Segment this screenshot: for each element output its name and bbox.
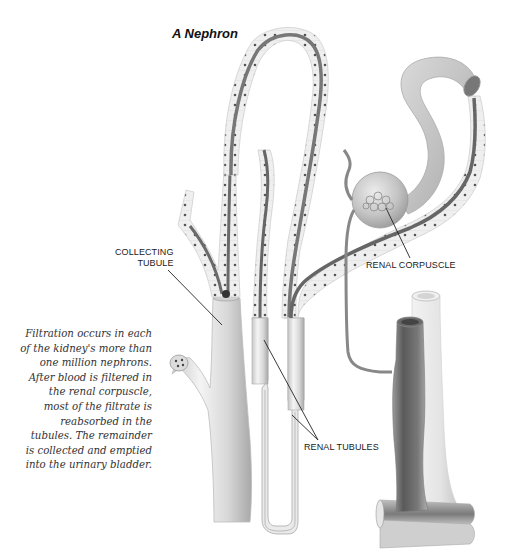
caption-line: of the kidney's more than (12, 342, 152, 357)
label-collecting-tubule: COLLECTING TUBULE (115, 247, 174, 269)
label-collecting-tubule-line1: COLLECTING (115, 247, 174, 258)
caption-line: most of the filtrate is (12, 400, 152, 415)
caption-line: is collected and emptied (12, 444, 152, 459)
caption-line: reabsorbed in the (12, 415, 152, 430)
diagram-title: A Nephron (172, 26, 238, 41)
blood-vessels (376, 291, 475, 548)
diagram-caption: Filtration occurs in each of the kidney'… (12, 327, 152, 473)
collecting-tubule (170, 170, 252, 522)
caption-line: one million nephrons. (12, 356, 152, 371)
caption-line: Filtration occurs in each (12, 327, 152, 342)
caption-line: the renal corpuscle, (12, 385, 152, 400)
label-collecting-tubule-line2: TUBULE (115, 258, 174, 269)
caption-line: tubules. The remainder (12, 429, 152, 444)
label-renal-tubules: RENAL TUBULES (304, 442, 379, 452)
caption-line: After blood is filtered in (12, 371, 152, 386)
caption-line: into the urinary bladder. (12, 458, 152, 473)
label-renal-corpuscle: RENAL CORPUSCLE (366, 260, 456, 270)
